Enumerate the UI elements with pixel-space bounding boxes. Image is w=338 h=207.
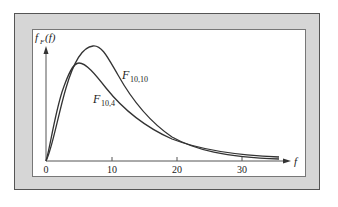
y-axis-arrow-icon: [44, 46, 49, 54]
x-tick-label-30: 30: [237, 164, 247, 175]
curve-f10-4: [46, 63, 279, 161]
label-f10-4-sub: 10,4: [101, 99, 115, 108]
label-f10-10-sub: 10,10: [130, 75, 148, 84]
x-tick-label-0: 0: [44, 164, 49, 175]
label-f10-10-main: F: [121, 68, 130, 82]
y-axis-label-arg: (f): [45, 31, 56, 44]
x-tick-label-10: 10: [107, 164, 117, 175]
x-axis-arrow-icon: [283, 159, 291, 164]
x-axis-label: f: [294, 155, 299, 167]
chart-svg: 0 10 20 30 f f F (f) F 10,10 F 10,4: [0, 0, 338, 207]
label-f10-4-main: F: [92, 92, 101, 106]
label-f10-10: F 10,10: [121, 68, 148, 84]
y-axis-label: f F (f): [35, 31, 56, 46]
x-tick-label-20: 20: [172, 164, 182, 175]
